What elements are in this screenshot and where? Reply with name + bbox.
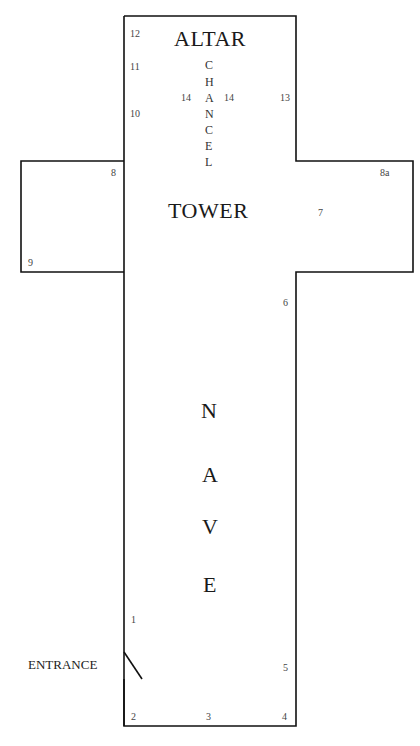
- nave-letter: A: [202, 462, 218, 488]
- altar-label: ALTAR: [174, 26, 246, 52]
- chancel-letter: N: [205, 107, 214, 122]
- marker-5: 5: [283, 662, 288, 673]
- cross-outline: [21, 16, 413, 726]
- marker-6: 6: [283, 297, 288, 308]
- marker-8a: 8a: [380, 167, 389, 178]
- chancel-letter: L: [205, 155, 212, 170]
- entrance-label: ENTRANCE: [28, 657, 97, 673]
- tower-label: TOWER: [168, 198, 248, 224]
- entrance-door-line: [124, 652, 142, 679]
- marker-9: 9: [28, 257, 33, 268]
- marker-14-left: 14: [181, 92, 191, 103]
- marker-13: 13: [280, 92, 290, 103]
- nave-letter: N: [201, 398, 217, 424]
- marker-1: 1: [131, 614, 136, 625]
- marker-11: 11: [130, 61, 140, 72]
- marker-8: 8: [111, 167, 116, 178]
- marker-3: 3: [206, 711, 211, 722]
- chancel-letter: E: [205, 139, 212, 154]
- marker-12: 12: [130, 28, 140, 39]
- chancel-letter: C: [205, 58, 213, 73]
- chancel-letter: H: [205, 75, 214, 90]
- marker-10: 10: [130, 108, 140, 119]
- marker-4: 4: [282, 711, 287, 722]
- nave-letter: E: [203, 572, 216, 598]
- chancel-letter: C: [205, 123, 213, 138]
- marker-2: 2: [131, 711, 136, 722]
- chancel-letter: A: [205, 91, 214, 106]
- marker-7: 7: [318, 207, 323, 218]
- marker-14-right: 14: [224, 92, 234, 103]
- nave-letter: V: [202, 514, 218, 540]
